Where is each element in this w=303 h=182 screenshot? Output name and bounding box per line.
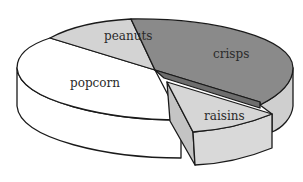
pie-chart: peanuts crisps popcorn raisins <box>0 0 303 182</box>
label-peanuts: peanuts <box>104 29 152 43</box>
label-raisins: raisins <box>204 109 245 123</box>
label-crisps: crisps <box>213 47 249 61</box>
label-popcorn: popcorn <box>70 76 120 90</box>
